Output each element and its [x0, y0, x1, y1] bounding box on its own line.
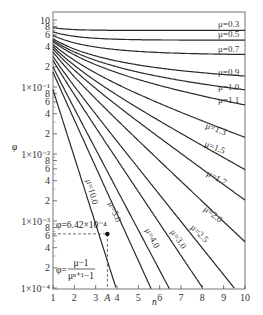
series-label: μ=1.1 [218, 95, 239, 105]
y-tick-label: 4 [45, 175, 50, 186]
series-label: μ=4.0 [143, 226, 162, 250]
formula-numerator: μ−1 [73, 258, 88, 268]
y-tick-label: 4 [45, 41, 50, 52]
x-axis-label: n [152, 297, 157, 307]
x-tick-label: 6 [157, 292, 162, 303]
series-line [53, 32, 245, 40]
series-label: μ=5.0 [106, 200, 123, 224]
series-label: μ=3.0 [168, 227, 189, 250]
y-tick-label: 6 [45, 96, 50, 107]
x-tick-label: 8 [200, 292, 205, 303]
series-label: μ=0.9 [218, 67, 240, 77]
x-tick-label: 5 [136, 292, 141, 303]
y-axis-label: φ [12, 142, 17, 152]
y-axis: 1086421×10⁻¹86421×10⁻²86421×10⁻³86421×10… [21, 15, 57, 294]
y-tick-label: 2 [45, 128, 50, 139]
series-label: μ=2.0 [202, 204, 225, 225]
y-tick-label: 6 [45, 230, 50, 241]
y-tick-label: 6 [45, 29, 50, 40]
x-tick-label: 1 [51, 292, 56, 303]
y-tick-label: 4 [45, 108, 50, 119]
series-label: μ=1.7 [205, 168, 229, 187]
series-line [53, 60, 202, 287]
series-label: μ=10.0 [84, 178, 100, 206]
series-label: μ=1.3 [204, 120, 228, 137]
series-label: μ=1.0 [218, 82, 240, 92]
formula-lhs: φ= [56, 265, 67, 275]
x-tick-label: A [103, 292, 111, 303]
chart: 1086421×10⁻¹86421×10⁻²86421×10⁻³86421×10… [0, 0, 263, 315]
x-tick-label: 3 [93, 292, 98, 303]
series-label: μ=0.5 [218, 29, 240, 39]
x-tick-label: 10 [240, 292, 250, 303]
annotations: φ=6.42×10⁻⁴φ=μ−1μⁿ⁺¹−1 [53, 220, 110, 289]
x-tick-label: 9 [221, 292, 226, 303]
marked-point [105, 232, 109, 236]
y-tick-label: 1×10⁻⁴ [21, 283, 51, 294]
series-lines [53, 28, 245, 289]
series-label: μ=0.7 [218, 44, 240, 54]
y-tick-label: 6 [45, 163, 50, 174]
formula-denominator: μⁿ⁺¹−1 [68, 271, 94, 281]
series-label: μ=0.3 [218, 19, 240, 29]
x-tick-label: 4 [115, 292, 120, 303]
y-tick-label: 2 [45, 61, 50, 72]
y-tick-label: 4 [45, 242, 50, 253]
x-tick-label: 2 [72, 292, 77, 303]
series-line [53, 28, 245, 31]
series-label: μ=2.5 [189, 222, 211, 244]
y-tick-label: 2 [45, 262, 50, 273]
x-tick-label: 7 [179, 292, 184, 303]
point-value-label: φ=6.42×10⁻⁴ [56, 220, 107, 230]
y-tick-label: 2 [45, 195, 50, 206]
